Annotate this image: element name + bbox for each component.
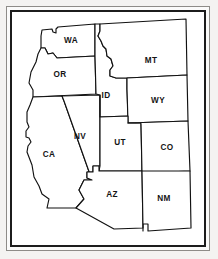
state-label-or: OR <box>53 70 66 79</box>
state-label-az: AZ <box>106 190 118 199</box>
western-us-map: WAORCANVIDMTWYUTCOAZNM <box>0 0 218 259</box>
state-label-wy: WY <box>151 96 165 105</box>
map-figure: WAORCANVIDMTWYUTCOAZNM <box>0 0 218 259</box>
state-label-ut: UT <box>114 138 126 147</box>
state-label-nm: NM <box>157 194 171 203</box>
state-label-wa: WA <box>64 36 78 45</box>
state-label-id: ID <box>102 91 111 100</box>
state-shape-mt[interactable] <box>98 19 187 78</box>
state-label-mt: MT <box>145 56 158 65</box>
state-label-nv: NV <box>74 132 86 141</box>
state-label-ca: CA <box>43 150 56 159</box>
state-label-co: CO <box>160 143 173 152</box>
